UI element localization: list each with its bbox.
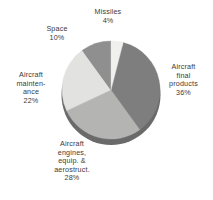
pie-label-aircraft-engines: Aircraft engines, equip. & aerostruct. 2… (36, 140, 108, 183)
pie-label-final-percent: 36% (156, 89, 211, 98)
pie-label-aircraft-maintenance: Aircraft mainten- ance 22% (2, 71, 60, 105)
pie-label-aircraft-final-products: Aircraft final products 36% (156, 63, 211, 97)
pie-label-space: Space 10% (30, 25, 84, 42)
pie-label-space-percent: 10% (30, 34, 84, 43)
pie-label-missiles-percent: 4% (78, 17, 138, 26)
pie-label-missiles: Missiles 4% (78, 8, 138, 25)
pie-label-engines-percent: 28% (36, 174, 108, 183)
pie-chart-page: Missiles 4% Space 10% Aircraft mainten- … (0, 0, 213, 200)
pie-label-maintenance-percent: 22% (2, 97, 60, 106)
pie-chart: Missiles 4% Space 10% Aircraft mainten- … (0, 0, 213, 200)
